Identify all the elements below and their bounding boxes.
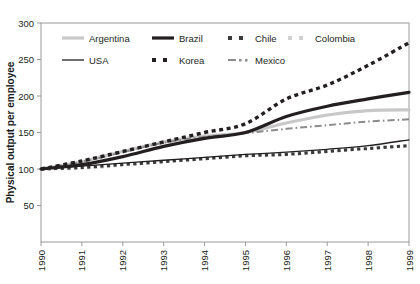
y-tick-label: 300 xyxy=(18,18,34,29)
legend-marker xyxy=(239,36,243,40)
legend-item-argentina[interactable]: Argentina xyxy=(62,33,130,44)
y-tick-label: 250 xyxy=(18,54,34,65)
series-line-usa xyxy=(41,140,409,169)
legend-label: Korea xyxy=(179,55,205,66)
legend-label: Argentina xyxy=(89,33,130,44)
x-tick-label: 1992 xyxy=(117,250,128,271)
y-tick-label: 200 xyxy=(18,91,34,102)
x-tick-label: 1996 xyxy=(281,250,292,271)
legend-marker xyxy=(152,58,156,62)
x-tick-label: 1990 xyxy=(36,250,47,271)
legend-label: USA xyxy=(89,55,109,66)
x-tick-label: 1997 xyxy=(322,250,333,271)
legend-marker xyxy=(245,59,248,62)
line-chart: 5010015020025030019901991199219931994199… xyxy=(0,0,420,284)
x-tick-label: 1994 xyxy=(199,250,210,271)
legend-item-colombia[interactable]: Colombia xyxy=(288,33,356,44)
y-tick-label: 150 xyxy=(18,127,34,138)
chart-container: 5010015020025030019901991199219931994199… xyxy=(0,0,420,284)
x-tick-label: 1991 xyxy=(76,250,87,271)
x-tick-label: 1995 xyxy=(240,250,251,271)
y-tick-label: 50 xyxy=(23,200,34,211)
x-tick-label: 1998 xyxy=(363,250,374,271)
legend-marker xyxy=(239,59,242,62)
legend-item-chile[interactable]: Chile xyxy=(228,33,277,44)
legend-item-usa[interactable]: USA xyxy=(62,55,109,66)
legend-item-korea[interactable]: Korea xyxy=(152,55,205,66)
legend-item-brazil[interactable]: Brazil xyxy=(152,33,203,44)
legend-marker xyxy=(228,36,232,40)
legend-label: Mexico xyxy=(255,55,285,66)
legend-label: Colombia xyxy=(315,33,356,44)
legend-label: Chile xyxy=(255,33,277,44)
legend-marker xyxy=(288,36,292,40)
series-line-argentina xyxy=(41,110,409,169)
legend-marker xyxy=(163,58,167,62)
legend-marker xyxy=(299,36,303,40)
legend-label: Brazil xyxy=(179,33,203,44)
y-tick-label: 100 xyxy=(18,164,34,175)
x-tick-label: 1993 xyxy=(158,250,169,271)
x-tick-label: 1999 xyxy=(404,250,415,271)
legend-item-mexico[interactable]: Mexico xyxy=(228,55,285,66)
y-axis-title: Physical output per employee xyxy=(5,61,16,203)
